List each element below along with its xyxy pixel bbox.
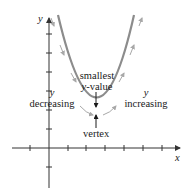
x-axis-label: x (175, 152, 180, 163)
vertex-label: vertex (83, 128, 109, 139)
smallest-text: smallest (72, 70, 122, 81)
left-y-text: y (22, 87, 82, 98)
y-decreasing-label: y decreasing (22, 87, 82, 109)
parabola-diagram: y x smallest y-value vertex y decreasing… (0, 0, 188, 192)
y-axis-label: y (38, 13, 43, 24)
decreasing-text: decreasing (22, 98, 82, 109)
increasing-text: increasing (116, 98, 176, 109)
y-increasing-label: y increasing (116, 87, 176, 109)
right-y-text: y (116, 87, 176, 98)
x-axis (12, 145, 180, 151)
